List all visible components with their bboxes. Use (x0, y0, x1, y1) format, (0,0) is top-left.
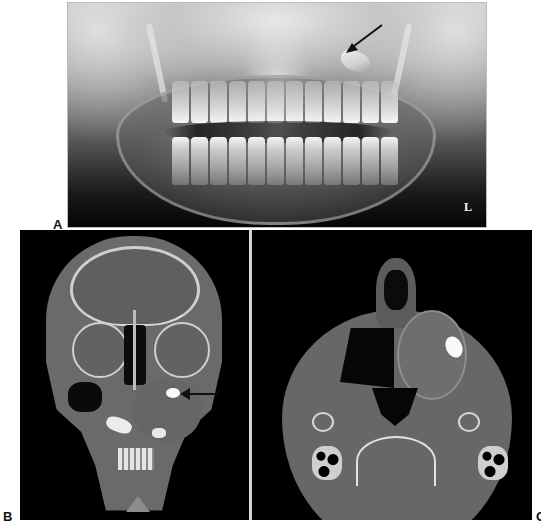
panel-c-axial-ct (251, 230, 532, 520)
left-condyle (458, 412, 480, 432)
upper-teeth (172, 81, 398, 123)
panel-label-c: C (536, 510, 541, 523)
aerated-sinus (68, 382, 102, 412)
lower-teeth (172, 137, 398, 185)
symphysis (126, 496, 150, 512)
calcified-focus (166, 388, 180, 398)
side-marker-left: L (464, 200, 472, 215)
arrow-icon (340, 21, 386, 57)
right-condyle (312, 412, 334, 432)
dense-tooth-structure (152, 428, 166, 438)
nasal-septum (133, 310, 136, 390)
teeth (118, 448, 154, 470)
right-mastoid (312, 446, 342, 480)
left-mastoid (478, 446, 508, 480)
panel-label-b: B (3, 510, 12, 523)
sinus-mass (132, 378, 202, 442)
skull-base (356, 436, 436, 486)
arrow-head-icon (180, 388, 190, 400)
left-orbit (154, 322, 210, 378)
right-orbit (72, 322, 128, 378)
panel-a-panoramic-radiograph: L (67, 2, 487, 228)
nasal-vestibule (384, 270, 408, 310)
panel-b-coronal-ct (20, 230, 249, 520)
